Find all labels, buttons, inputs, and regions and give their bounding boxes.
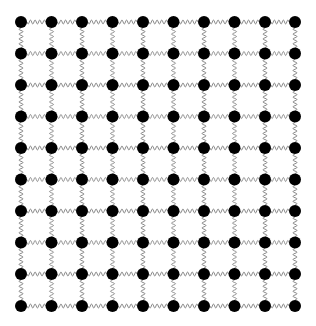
spring-edge: [80, 280, 84, 300]
spring-edge: [241, 304, 260, 308]
spring-edge: [180, 272, 199, 276]
mass-node: [259, 205, 271, 217]
mass-node: [107, 205, 119, 217]
spring-edge: [80, 91, 84, 111]
mass-node: [15, 48, 27, 60]
mass-node: [137, 174, 149, 186]
spring-edge: [111, 186, 115, 206]
spring-edge: [241, 178, 260, 182]
mass-node: [46, 205, 58, 217]
mass-node: [46, 300, 58, 312]
spring-edge: [271, 146, 289, 150]
spring-edge: [271, 52, 289, 56]
spring-edge: [233, 186, 237, 206]
spring-edge: [111, 123, 115, 143]
spring-edge: [27, 209, 46, 213]
spring-edge: [88, 115, 107, 119]
mass-node: [168, 268, 180, 280]
mass-node: [107, 79, 119, 91]
spring-edge: [263, 186, 267, 206]
mass-node: [229, 142, 241, 154]
mass-node: [198, 205, 210, 217]
mass-node: [229, 111, 241, 123]
spring-edge: [88, 20, 107, 24]
spring-edge: [233, 280, 237, 300]
mass-node: [46, 16, 58, 28]
mass-node: [198, 268, 210, 280]
spring-edge: [233, 60, 237, 80]
spring-edge: [172, 28, 176, 48]
spring-edge: [27, 241, 46, 245]
spring-edge: [172, 217, 176, 237]
spring-edge: [210, 178, 229, 182]
mass-node: [76, 205, 88, 217]
spring-edge: [50, 28, 54, 48]
mass-node: [137, 16, 149, 28]
mass-node: [107, 48, 119, 60]
spring-edge: [263, 28, 267, 48]
spring-edge: [19, 280, 23, 300]
mass-node: [15, 237, 27, 249]
spring-edge: [210, 83, 229, 87]
mass-node: [107, 174, 119, 186]
spring-edge: [141, 249, 145, 269]
mass-node: [259, 237, 271, 249]
spring-edge: [27, 52, 46, 56]
spring-edge: [111, 91, 115, 111]
mass-node: [259, 48, 271, 60]
spring-edge: [241, 146, 260, 150]
spring-edge: [88, 52, 107, 56]
spring-edge: [119, 20, 138, 24]
spring-edge: [119, 83, 138, 87]
mass-node: [137, 205, 149, 217]
spring-edge: [241, 83, 260, 87]
spring-edge: [141, 154, 145, 174]
spring-edge: [263, 249, 267, 269]
mass-node: [107, 300, 119, 312]
spring-edge: [149, 241, 168, 245]
spring-edge: [50, 91, 54, 111]
spring-edge: [172, 60, 176, 80]
mass-node: [137, 48, 149, 60]
mass-node: [76, 48, 88, 60]
spring-edge: [172, 186, 176, 206]
spring-edge: [233, 217, 237, 237]
mass-node: [76, 111, 88, 123]
spring-edge: [50, 217, 54, 237]
spring-edge: [88, 178, 107, 182]
spring-edge: [149, 209, 168, 213]
spring-edge: [293, 123, 297, 143]
spring-edge: [50, 154, 54, 174]
spring-edge: [141, 91, 145, 111]
mass-node: [198, 142, 210, 154]
spring-edge: [263, 123, 267, 143]
spring-edge: [141, 123, 145, 143]
spring-edge: [210, 20, 229, 24]
mass-node: [259, 174, 271, 186]
mass-node: [107, 142, 119, 154]
mass-node: [289, 205, 301, 217]
spring-edge: [241, 241, 260, 245]
mass-node: [229, 48, 241, 60]
spring-edge: [233, 91, 237, 111]
spring-edge: [210, 241, 229, 245]
spring-edge: [27, 115, 46, 119]
mass-node: [46, 142, 58, 154]
spring-edge: [210, 146, 229, 150]
spring-edge: [27, 272, 46, 276]
spring-edge: [119, 304, 138, 308]
spring-edge: [293, 186, 297, 206]
mass-node: [168, 79, 180, 91]
mass-node: [259, 300, 271, 312]
spring-edge: [19, 28, 23, 48]
spring-edge: [263, 91, 267, 111]
mass-node: [289, 237, 301, 249]
spring-edge: [80, 123, 84, 143]
spring-edge: [202, 91, 206, 111]
spring-edge: [111, 28, 115, 48]
spring-edge: [180, 304, 199, 308]
spring-edge: [88, 209, 107, 213]
spring-edge: [172, 154, 176, 174]
spring-edge: [263, 60, 267, 80]
mass-node: [15, 142, 27, 154]
